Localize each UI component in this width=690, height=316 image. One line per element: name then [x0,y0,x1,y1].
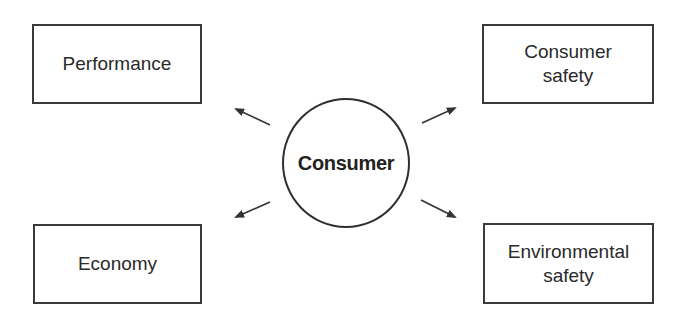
arrow-down-right-icon [421,200,455,217]
edges-layer [0,0,690,316]
arrow-down-left-icon [236,202,270,217]
arrow-up-left-icon [236,109,270,125]
arrow-up-right-icon [422,108,455,123]
